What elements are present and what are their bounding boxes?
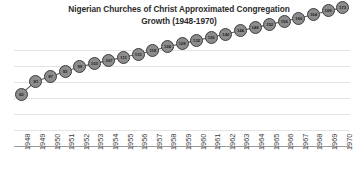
x-axis-tick: 1969 xyxy=(323,149,333,187)
x-axis-tick-label: 1959 xyxy=(184,134,193,150)
x-axis-tick: 1967 xyxy=(294,149,304,187)
x-axis-tick: 1963 xyxy=(235,149,245,187)
x-axis-tick-label: 1953 xyxy=(96,134,105,150)
x-axis-tick: 1966 xyxy=(279,149,289,187)
x-axis-tick-label: 1962 xyxy=(228,134,237,150)
x-axis-tick-label: 1948 xyxy=(23,134,32,150)
x-axis-tick-label: 1951 xyxy=(67,134,76,150)
x-axis-tick: 1965 xyxy=(265,149,275,187)
chart-title-line-1: Nigerian Churches of Christ Approximated… xyxy=(0,4,358,16)
data-point-marker: 132 xyxy=(190,34,203,47)
data-point-marker: 136 xyxy=(205,31,218,44)
x-axis-tick: 1949 xyxy=(31,149,41,187)
data-point-marker: 87 xyxy=(44,70,57,83)
x-axis-tick-label: 1949 xyxy=(38,134,47,150)
data-point-marker: 103 xyxy=(88,57,101,70)
x-axis-tick: 1962 xyxy=(221,149,231,187)
x-axis-tick: 1951 xyxy=(60,149,70,187)
x-axis-labels: 1948194919501951195219531954195519561957… xyxy=(14,149,350,189)
x-axis-tick-label: 1950 xyxy=(53,134,62,150)
x-axis-tick: 1964 xyxy=(250,149,260,187)
x-axis-tick: 1954 xyxy=(104,149,114,187)
chart-container: Nigerian Churches of Christ Approximated… xyxy=(0,0,358,189)
plot-area: 6581879399103107111115119124128132136140… xyxy=(14,34,350,146)
x-axis-tick-label: 1965 xyxy=(272,134,281,150)
x-axis-tick-label: 1955 xyxy=(126,134,135,150)
data-point-marker: 111 xyxy=(117,51,130,64)
x-axis-tick-label: 1970 xyxy=(345,134,354,150)
x-axis-tick: 1956 xyxy=(133,149,143,187)
data-point-marker: 128 xyxy=(176,37,189,50)
x-axis-tick: 1948 xyxy=(16,149,26,187)
x-axis-tick-label: 1969 xyxy=(330,134,339,150)
x-axis-tick: 1957 xyxy=(148,149,158,187)
x-axis-tick-label: 1961 xyxy=(213,134,222,150)
data-point-marker: 140 xyxy=(219,28,232,41)
x-axis-tick: 1950 xyxy=(46,149,56,187)
data-point-marker: 115 xyxy=(132,48,145,61)
data-point-marker: 65 xyxy=(15,88,28,101)
x-axis-tick-label: 1954 xyxy=(111,134,120,150)
x-axis-tick: 1968 xyxy=(308,149,318,187)
x-axis-tick: 1960 xyxy=(192,149,202,187)
x-axis-tick-label: 1957 xyxy=(155,134,164,150)
x-axis-tick: 1959 xyxy=(177,149,187,187)
x-axis-tick-label: 1968 xyxy=(315,134,324,150)
x-axis-tick-label: 1964 xyxy=(257,134,266,150)
data-point-marker: 148 xyxy=(249,21,262,34)
x-axis-tick: 1958 xyxy=(162,149,172,187)
x-axis-tick-label: 1960 xyxy=(199,134,208,150)
data-point-marker: 152 xyxy=(263,18,276,31)
data-point-marker: 93 xyxy=(59,65,72,78)
x-axis-tick: 1970 xyxy=(338,149,348,187)
x-axis-tick-label: 1952 xyxy=(82,134,91,150)
data-point-marker: 169 xyxy=(322,4,335,17)
x-axis-tick: 1961 xyxy=(206,149,216,187)
x-axis-line xyxy=(14,146,350,147)
x-axis-tick: 1953 xyxy=(89,149,99,187)
x-axis-tick-label: 1963 xyxy=(242,134,251,150)
x-axis-tick-label: 1966 xyxy=(286,134,295,150)
x-axis-tick-label: 1967 xyxy=(301,134,310,150)
x-axis-tick-label: 1956 xyxy=(140,134,149,150)
x-axis-tick-label: 1958 xyxy=(169,134,178,150)
x-axis-tick: 1955 xyxy=(119,149,129,187)
x-axis-tick: 1952 xyxy=(75,149,85,187)
series-line xyxy=(14,34,350,146)
data-point-marker: 156 xyxy=(278,15,291,28)
data-point-marker: 160 xyxy=(292,12,305,25)
